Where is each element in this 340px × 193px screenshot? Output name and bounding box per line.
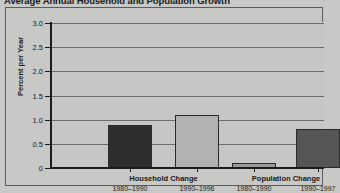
x-group-label: Population Change bbox=[252, 174, 320, 183]
y-tick-label: 0.5 bbox=[33, 139, 43, 148]
gridline bbox=[50, 96, 324, 97]
y-tick-label: 1.0 bbox=[33, 115, 43, 124]
bar bbox=[108, 125, 152, 169]
plot-area: 00.51.01.52.02.53.0 bbox=[50, 22, 324, 169]
bar bbox=[175, 115, 219, 168]
gridline bbox=[50, 47, 324, 48]
x-group-label: Household Change bbox=[129, 174, 197, 183]
y-axis-title: Percent per Year bbox=[16, 37, 25, 96]
chart-title: Average Annual Household and Population … bbox=[4, 0, 326, 6]
y-axis-line bbox=[50, 22, 52, 169]
x-period-label: 1980–1990 bbox=[236, 185, 271, 192]
x-period-label: 1990–1996 bbox=[179, 185, 214, 192]
y-tick-label: 2.0 bbox=[33, 67, 43, 76]
bar bbox=[296, 129, 340, 168]
x-period-label: 1980–1990 bbox=[112, 185, 147, 192]
gridline bbox=[50, 23, 324, 24]
chart-panel: Percent per Year 00.51.01.52.02.53.0 198… bbox=[5, 7, 323, 186]
x-period-label: 1990–1997 bbox=[300, 185, 335, 192]
y-tick-label: 0 bbox=[39, 164, 43, 173]
y-tick-label: 1.5 bbox=[33, 91, 43, 100]
y-tick-label: 2.5 bbox=[33, 43, 43, 52]
y-tick-label: 3.0 bbox=[33, 19, 43, 28]
x-axis-line bbox=[50, 167, 324, 169]
gridline bbox=[50, 71, 324, 72]
